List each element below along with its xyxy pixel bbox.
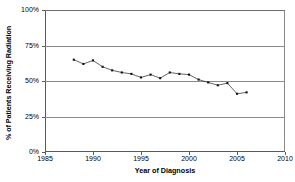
data-point-marker	[121, 71, 123, 73]
x-tick-label: 1990	[73, 155, 113, 162]
data-point-marker	[178, 73, 180, 75]
data-point-marker	[188, 74, 190, 76]
x-axis-title: Year of Diagnosis	[45, 166, 285, 175]
data-point-marker	[236, 93, 238, 95]
data-point-marker	[111, 69, 113, 71]
x-tick-label: 2000	[169, 155, 209, 162]
y-tick-label: 100%	[0, 6, 39, 14]
x-tick-label: 2010	[265, 155, 295, 162]
y-tick-label: 25%	[0, 113, 39, 121]
y-tick-label: 50%	[0, 77, 39, 85]
y-tick-label: 75%	[0, 42, 39, 50]
data-point-marker	[159, 77, 161, 79]
series-line	[74, 60, 247, 94]
data-point-marker	[226, 82, 228, 84]
data-point-marker	[140, 76, 142, 78]
data-point-marker	[198, 79, 200, 81]
data-point-marker	[207, 81, 209, 83]
data-point-marker	[130, 73, 132, 75]
x-tick-label: 2005	[217, 155, 257, 162]
data-point-marker	[217, 84, 219, 86]
plot-area	[45, 10, 285, 152]
x-tick-label: 1985	[25, 155, 65, 162]
data-point-marker	[82, 63, 84, 65]
chart-figure: % of Patients Receiving Radiation 0%25%5…	[0, 0, 295, 182]
x-tick-label: 1995	[121, 155, 161, 162]
data-point-marker	[246, 91, 248, 93]
data-point-marker	[150, 74, 152, 76]
data-point-marker	[169, 71, 171, 73]
data-point-marker	[92, 59, 94, 61]
data-series	[45, 10, 285, 152]
data-point-marker	[73, 59, 75, 61]
data-point-marker	[102, 66, 104, 68]
